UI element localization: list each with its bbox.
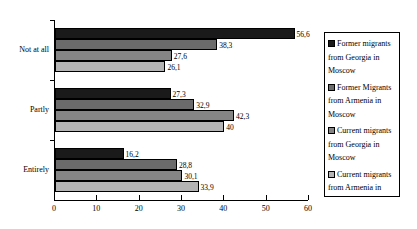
bar-chart: Not at allPartlyEntirely 56,638,327,626,… — [0, 0, 417, 229]
bar-value-label: 33,9 — [201, 183, 214, 192]
bar — [55, 110, 234, 121]
legend-entry[interactable]: Former Migrants from Armenia in Moscow — [328, 80, 397, 121]
x-axis-tick-label: 40 — [208, 204, 238, 213]
legend-swatch-icon — [328, 127, 335, 134]
bar — [55, 170, 182, 181]
bar — [55, 50, 172, 61]
legend-swatch-icon — [328, 171, 335, 178]
legend-entry[interactable]: Former migrants from Georgia in Moscow — [328, 36, 397, 77]
x-axis-tick — [181, 195, 182, 200]
bar-value-label: 16,2 — [126, 150, 139, 159]
x-axis-tick — [223, 195, 224, 200]
bar — [55, 159, 177, 170]
legend-entry-list: Former migrants from Georgia in MoscowFo… — [328, 36, 397, 197]
bar-value-label: 28,8 — [179, 161, 192, 170]
category-label: Partly — [30, 105, 49, 114]
legend-entry[interactable]: Current migrants from Georgia in Moscow — [328, 123, 397, 164]
bar — [55, 121, 224, 132]
bar-value-label: 56,6 — [297, 30, 310, 39]
legend-swatch-icon — [328, 84, 335, 91]
x-axis-line — [54, 200, 308, 201]
bar — [55, 148, 124, 159]
bar — [55, 99, 194, 110]
bar-value-label: 42,3 — [236, 112, 249, 121]
category-label: Entirely — [23, 165, 49, 174]
bar — [55, 39, 217, 50]
bar-value-label: 26,1 — [167, 63, 180, 72]
x-axis-tick-label: 20 — [124, 204, 154, 213]
bar-value-label: 27,6 — [174, 52, 187, 61]
x-axis-tick — [139, 195, 140, 200]
bar-value-label: 32,9 — [196, 101, 209, 110]
x-axis-tick — [308, 195, 309, 200]
bar — [55, 181, 199, 192]
y-axis-tick — [50, 80, 55, 81]
chart-legend: Former migrants from Georgia in MoscowFo… — [324, 32, 400, 197]
bar — [55, 61, 165, 72]
legend-label: Former migrants from Georgia in Moscow — [328, 39, 391, 75]
x-axis-tick-label: 60 — [293, 204, 323, 213]
bar-value-label: 27,3 — [173, 90, 186, 99]
bar — [55, 88, 171, 99]
x-axis-tick-label: 30 — [166, 204, 196, 213]
y-axis-tick — [50, 140, 55, 141]
bar — [55, 28, 295, 39]
legend-label: Current migrants from Armenia in Moscow — [328, 170, 391, 198]
x-axis-tick-label: 0 — [39, 204, 69, 213]
bar-value-label: 40 — [226, 123, 234, 132]
legend-label: Former Migrants from Armenia in Moscow — [328, 83, 391, 119]
bar-value-label: 30,1 — [184, 172, 197, 181]
legend-swatch-icon — [328, 40, 335, 47]
x-axis-tick — [96, 195, 97, 200]
x-axis-tick-label: 50 — [251, 204, 281, 213]
x-axis-tick-label: 10 — [81, 204, 111, 213]
x-axis-tick — [54, 195, 55, 200]
bar-value-label: 38,3 — [219, 41, 232, 50]
y-axis-tick — [50, 20, 55, 21]
x-axis-tick — [266, 195, 267, 200]
legend-label: Current migrants from Georgia in Moscow — [328, 126, 391, 162]
category-label: Not at all — [19, 45, 49, 54]
legend-entry[interactable]: Current migrants from Armenia in Moscow — [328, 167, 397, 198]
